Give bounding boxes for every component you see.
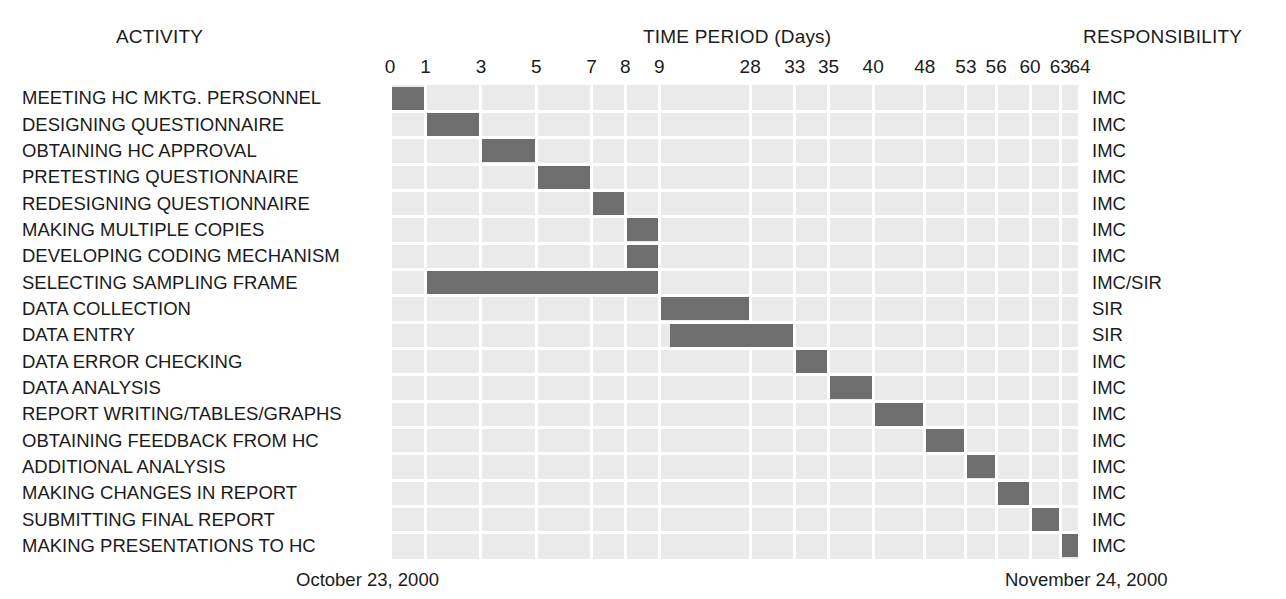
responsibility-label: IMC/SIR (1092, 274, 1162, 293)
gantt-bar[interactable] (875, 403, 924, 426)
responsibility-label: IMC (1092, 379, 1126, 398)
x-axis-tick-5: 5 (531, 56, 542, 78)
grid-row-separator (390, 215, 1080, 218)
activity-label: SELECTING SAMPLING FRAME (22, 274, 298, 293)
activity-label: ADDITIONAL ANALYSIS (22, 458, 226, 477)
gantt-bar[interactable] (427, 271, 658, 294)
activity-label: MAKING CHANGES IN REPORT (22, 484, 297, 503)
gantt-bar[interactable] (998, 482, 1029, 505)
gantt-chart: ACTIVITY TIME PERIOD (Days) RESPONSIBILI… (0, 0, 1286, 599)
activity-label: MEETING HC MKTG. PERSONNEL (22, 89, 321, 108)
activity-label: REDESIGNING QUESTIONNAIRE (22, 195, 310, 214)
activity-label: OBTAINING FEEDBACK FROM HC (22, 432, 319, 451)
responsibility-label: IMC (1092, 484, 1126, 503)
responsibility-label: IMC (1092, 247, 1126, 266)
x-axis-tick-labels: 013578928333540485356606364 (0, 56, 1286, 80)
x-axis-tick-40: 40 (863, 56, 884, 78)
grid-row-separator (390, 189, 1080, 192)
responsibility-label: IMC (1092, 168, 1126, 187)
x-axis-tick-35: 35 (818, 56, 839, 78)
project-end-date: November 24, 2000 (1005, 569, 1168, 591)
responsibility-column: IMCIMCIMCIMCIMCIMCIMCIMC/SIRSIRSIRIMCIMC… (1080, 85, 1286, 559)
gantt-bar[interactable] (830, 376, 872, 399)
responsibility-label: IMC (1092, 142, 1126, 161)
responsibility-label: IMC (1092, 537, 1126, 556)
responsibility-label: IMC (1092, 89, 1126, 108)
x-axis-tick-53: 53 (955, 56, 976, 78)
gantt-bar[interactable] (661, 297, 749, 320)
x-axis-tick-1: 1 (420, 56, 431, 78)
activity-label: DEVELOPING CODING MECHANISM (22, 247, 340, 266)
activity-label: REPORT WRITING/TABLES/GRAPHS (22, 405, 342, 424)
responsibility-label: IMC (1092, 432, 1126, 451)
responsibility-label: IMC (1092, 458, 1126, 477)
gantt-bar[interactable] (593, 192, 624, 215)
responsibility-column-header: RESPONSIBILITY (1083, 26, 1242, 48)
activity-label: SUBMITTING FINAL REPORT (22, 511, 275, 530)
activity-label: DATA COLLECTION (22, 300, 191, 319)
activity-label: DATA ERROR CHECKING (22, 353, 242, 372)
activity-label: DATA ANALYSIS (22, 379, 161, 398)
gantt-bar[interactable] (627, 218, 658, 241)
x-axis-tick-33: 33 (784, 56, 805, 78)
grid-row-separator (390, 426, 1080, 429)
responsibility-label: SIR (1092, 300, 1123, 319)
gantt-bar[interactable] (538, 166, 590, 189)
gantt-bar[interactable] (967, 455, 994, 478)
responsibility-label: IMC (1092, 116, 1126, 135)
x-axis-tick-28: 28 (740, 56, 761, 78)
gantt-bar[interactable] (796, 350, 827, 373)
gantt-plot-area (390, 85, 1080, 559)
x-axis-tick-9: 9 (654, 56, 665, 78)
responsibility-label: IMC (1092, 353, 1126, 372)
gantt-bar[interactable] (1032, 508, 1059, 531)
gantt-bar[interactable] (627, 245, 658, 268)
responsibility-label: IMC (1092, 511, 1126, 530)
grid-row-separator (390, 110, 1080, 113)
x-axis-tick-56: 56 (986, 56, 1007, 78)
x-axis-tick-8: 8 (620, 56, 631, 78)
grid-row-separator (390, 242, 1080, 245)
gantt-bar[interactable] (1062, 534, 1079, 557)
x-axis-tick-7: 7 (586, 56, 597, 78)
activity-label: PRETESTING QUESTIONNAIRE (22, 168, 299, 187)
gantt-bar[interactable] (482, 139, 534, 162)
gantt-bar[interactable] (670, 324, 793, 347)
x-axis-tick-48: 48 (914, 56, 935, 78)
grid-row-separator (390, 163, 1080, 166)
activity-label-column: MEETING HC MKTG. PERSONNELDESIGNING QUES… (0, 85, 390, 559)
activity-label: OBTAINING HC APPROVAL (22, 142, 257, 161)
activity-label: DESIGNING QUESTIONNAIRE (22, 116, 284, 135)
grid-row-separator (390, 373, 1080, 376)
responsibility-label: IMC (1092, 405, 1126, 424)
gantt-bar[interactable] (926, 429, 964, 452)
activity-label: MAKING MULTIPLE COPIES (22, 221, 264, 240)
time-period-header: TIME PERIOD (Days) (643, 26, 831, 48)
grid-row-separator (390, 400, 1080, 403)
grid-row-separator (390, 347, 1080, 350)
grid-row-separator (390, 479, 1080, 482)
grid-row-separator (390, 505, 1080, 508)
grid-row-separator (390, 531, 1080, 534)
activity-label: MAKING PRESENTATIONS TO HC (22, 537, 316, 556)
gantt-bar[interactable] (392, 87, 425, 110)
x-axis-tick-60: 60 (1019, 56, 1040, 78)
x-axis-tick-64: 64 (1069, 56, 1090, 78)
x-axis-tick-63: 63 (1050, 56, 1071, 78)
x-axis-tick-0: 0 (385, 56, 396, 78)
responsibility-label: IMC (1092, 195, 1126, 214)
responsibility-label: IMC (1092, 221, 1126, 240)
activity-label: DATA ENTRY (22, 326, 135, 345)
responsibility-label: SIR (1092, 326, 1123, 345)
project-start-date: October 23, 2000 (296, 569, 439, 591)
gantt-bar[interactable] (427, 113, 479, 136)
activity-column-header: ACTIVITY (116, 26, 203, 48)
x-axis-tick-3: 3 (476, 56, 487, 78)
